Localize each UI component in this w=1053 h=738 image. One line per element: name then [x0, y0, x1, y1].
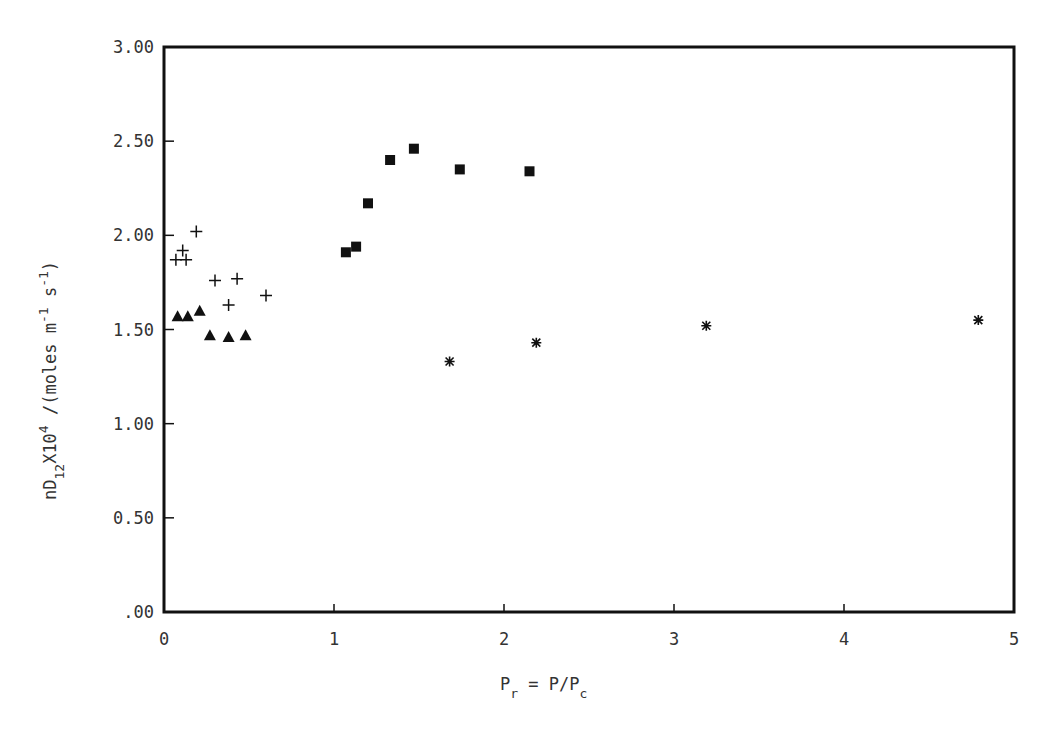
triangle-marker — [204, 329, 216, 340]
x-axis-title: Pr = P/Pc — [500, 674, 587, 701]
plus-marker — [231, 273, 243, 285]
y-tick-label: 2.50 — [113, 131, 154, 151]
asterisk-marker — [531, 338, 541, 348]
square-marker — [341, 247, 351, 257]
plus-marker — [223, 299, 235, 311]
series-plus — [170, 226, 272, 311]
plus-marker — [190, 226, 202, 238]
square-marker — [363, 198, 373, 208]
series-triangle — [172, 305, 252, 342]
y-tick-label: 0.50 — [113, 508, 154, 528]
y-tick-label: 2.00 — [113, 225, 154, 245]
square-marker — [455, 164, 465, 174]
triangle-marker — [182, 310, 194, 321]
y-tick-label: 1.00 — [113, 414, 154, 434]
x-tick-label: 2 — [499, 629, 509, 649]
plus-marker — [170, 254, 182, 266]
plus-marker — [260, 290, 272, 302]
asterisk-marker — [973, 315, 983, 325]
asterisk-marker — [445, 357, 455, 367]
x-tick-label: 4 — [839, 629, 849, 649]
plot-frame — [164, 47, 1014, 612]
y-tick-label: 1.50 — [113, 320, 154, 340]
data-points — [170, 144, 983, 367]
plus-marker — [177, 244, 189, 256]
square-marker — [385, 155, 395, 165]
series-square — [341, 144, 535, 258]
square-marker — [409, 144, 419, 154]
triangle-marker — [223, 331, 235, 342]
x-tick-label: 1 — [329, 629, 339, 649]
x-tick-label: 3 — [669, 629, 679, 649]
scatter-chart: 012345 .000.501.001.502.002.503.00 Pr = … — [0, 0, 1053, 738]
series-asterisk — [445, 315, 984, 366]
y-axis-title: nD12X104 /(moles m-1 s-1) — [36, 261, 67, 500]
square-marker — [525, 166, 535, 176]
plus-marker — [180, 254, 192, 266]
x-tick-label: 5 — [1009, 629, 1019, 649]
triangle-marker — [240, 329, 252, 340]
triangle-marker — [194, 305, 206, 316]
asterisk-marker — [701, 321, 711, 331]
plus-marker — [209, 275, 221, 287]
y-tick-label: 3.00 — [113, 37, 154, 57]
y-tick-label: .00 — [123, 602, 154, 622]
x-tick-label: 0 — [159, 629, 169, 649]
triangle-marker — [172, 310, 184, 321]
square-marker — [351, 242, 361, 252]
